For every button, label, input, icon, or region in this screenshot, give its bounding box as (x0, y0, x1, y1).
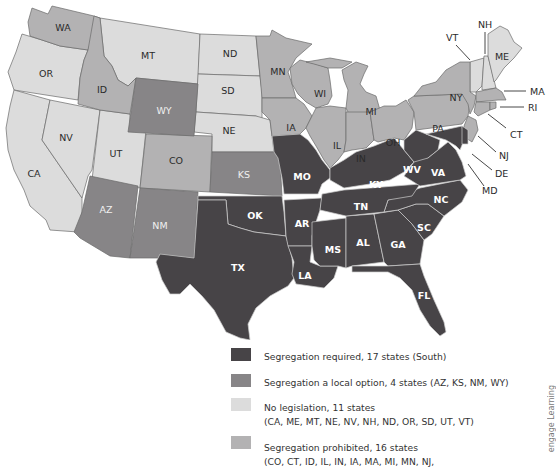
swatch-local-option (231, 374, 251, 387)
state-FL (352, 264, 446, 336)
swatch-required (231, 348, 251, 361)
label-UT: UT (110, 148, 123, 159)
state-IN (344, 112, 374, 152)
callout-CT: CT (510, 129, 523, 140)
label-CA: CA (27, 168, 41, 179)
callout-NJ: NJ (499, 150, 509, 161)
state-RI (490, 102, 496, 110)
legend-label-no-legislation: No legislation, 11 states (264, 401, 375, 415)
legend-sublabel-prohibited: (CO, CT, ID, IL, IN, IA, MA, MI, MN, NJ, (264, 455, 434, 469)
label-IL: IL (333, 140, 342, 151)
callout-MA: MA (530, 86, 545, 97)
arrow-VT (456, 45, 470, 60)
label-LA: LA (298, 270, 312, 281)
label-OR: OR (39, 68, 53, 79)
label-OH: OH (386, 137, 401, 148)
label-MO: MO (293, 171, 311, 182)
label-MI: MI (366, 106, 377, 117)
swatch-prohibited (231, 436, 251, 449)
label-PA: PA (432, 123, 444, 134)
legend-label-local-option: Segregation a local option, 4 states (AZ… (264, 376, 509, 390)
us-segregation-map: WA OR CA ID NV MT WY UT AZ CO NM ND SD N… (0, 0, 558, 340)
callout-VT: VT (446, 32, 458, 43)
callout-MD: MD (482, 185, 498, 196)
callout-DE: DE (495, 168, 508, 179)
callout-RI: RI (528, 102, 537, 113)
legend-label-required: Segregation required, 17 states (South) (264, 350, 446, 364)
label-AZ: AZ (99, 204, 112, 215)
label-NM: NM (152, 220, 167, 231)
label-OK: OK (247, 210, 263, 221)
label-GA: GA (390, 239, 406, 250)
label-MN: MN (270, 66, 285, 77)
label-AL: AL (356, 237, 369, 248)
label-KS: KS (238, 169, 250, 180)
arrow-NJ (478, 136, 496, 152)
label-WI: WI (314, 88, 326, 99)
swatch-no-legislation (231, 398, 251, 411)
label-SC: SC (417, 222, 431, 233)
label-KY: KY (369, 179, 383, 190)
arrow-DE (472, 154, 492, 170)
label-MS: MS (325, 244, 341, 255)
label-FL: FL (418, 290, 431, 301)
label-ME: ME (495, 51, 509, 62)
label-IA: IA (286, 122, 296, 133)
label-NC: NC (434, 194, 449, 205)
label-TX: TX (231, 262, 245, 273)
state-MA (476, 88, 506, 102)
image-credit: engage Learning (547, 385, 556, 452)
label-MT: MT (141, 50, 155, 61)
label-VA: VA (431, 167, 446, 178)
callout-NH: NH (478, 19, 492, 30)
label-ID: ID (97, 84, 107, 95)
state-CT (474, 102, 490, 116)
label-SD: SD (221, 85, 234, 96)
label-NV: NV (59, 132, 73, 143)
label-WA: WA (55, 22, 71, 33)
label-CO: CO (169, 155, 183, 166)
arrow-MD (468, 164, 484, 186)
label-WY: WY (156, 105, 171, 116)
label-ND: ND (223, 48, 237, 59)
label-TN: TN (354, 201, 368, 212)
arrow-CT (488, 114, 506, 128)
label-WV: WV (403, 164, 421, 175)
legend-label-prohibited: Segregation prohibited, 16 states (264, 441, 418, 455)
label-NE: NE (222, 125, 235, 136)
label-AR: AR (295, 218, 310, 229)
legend-sublabel-no-legislation: (CA, ME, MT, NE, NV, NH, ND, OR, SD, UT,… (264, 415, 474, 429)
label-NY: NY (450, 92, 463, 103)
label-IN: IN (356, 153, 366, 164)
